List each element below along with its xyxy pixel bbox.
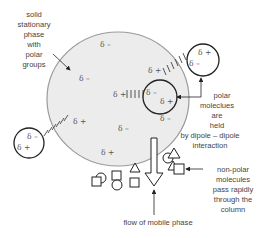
svg-text:groups: groups bbox=[22, 60, 45, 69]
svg-text:δ –: δ – bbox=[189, 59, 200, 68]
svg-text:pass rapidly: pass rapidly bbox=[213, 185, 254, 194]
svg-text:δ +: δ + bbox=[101, 148, 114, 157]
svg-text:δ –: δ – bbox=[118, 124, 129, 133]
svg-text:δ –: δ – bbox=[146, 88, 157, 97]
svg-text:δ –: δ – bbox=[160, 114, 171, 123]
svg-text:δ +: δ + bbox=[198, 48, 211, 57]
svg-text:δ +: δ + bbox=[160, 97, 173, 106]
svg-text:molecules: molecules bbox=[216, 175, 250, 184]
held-polar-molecule: δ – δ + bbox=[143, 80, 177, 114]
svg-text:non-polar: non-polar bbox=[217, 165, 250, 174]
flow-label: flow of mobile phase bbox=[123, 218, 192, 227]
svg-text:are: are bbox=[212, 111, 223, 120]
svg-text:interaction: interaction bbox=[192, 141, 227, 150]
svg-text:by dipole – dipole: by dipole – dipole bbox=[180, 131, 239, 140]
svg-text:polar: polar bbox=[26, 50, 43, 59]
svg-text:through the: through the bbox=[214, 195, 252, 204]
svg-text:δ +: δ + bbox=[148, 66, 161, 75]
svg-text:δ –: δ – bbox=[27, 132, 38, 141]
svg-text:column: column bbox=[221, 205, 245, 214]
svg-text:polar: polar bbox=[214, 91, 231, 100]
svg-text:δ –: δ – bbox=[79, 74, 90, 83]
non-polar-label: non-polar molecules pass rapidly through… bbox=[213, 165, 254, 214]
svg-text:δ +: δ + bbox=[113, 90, 126, 99]
chromatography-diagram: solid stationary phase with polar groups… bbox=[0, 0, 261, 238]
polar-molecule-left: δ – δ + bbox=[14, 128, 44, 158]
stationary-phase-label: solid stationary phase with polar groups bbox=[18, 10, 51, 69]
svg-text:δ +: δ + bbox=[73, 117, 86, 126]
svg-text:δ –: δ – bbox=[100, 40, 111, 49]
svg-text:moleclues: moleclues bbox=[200, 101, 234, 110]
svg-text:phase: phase bbox=[24, 30, 45, 39]
svg-text:with: with bbox=[26, 40, 41, 49]
polar-molecule-upper: δ + δ – bbox=[187, 44, 219, 76]
svg-text:solid: solid bbox=[26, 10, 42, 19]
svg-text:stationary: stationary bbox=[18, 20, 51, 29]
svg-text:held: held bbox=[210, 121, 224, 130]
svg-text:δ +: δ + bbox=[17, 143, 30, 152]
